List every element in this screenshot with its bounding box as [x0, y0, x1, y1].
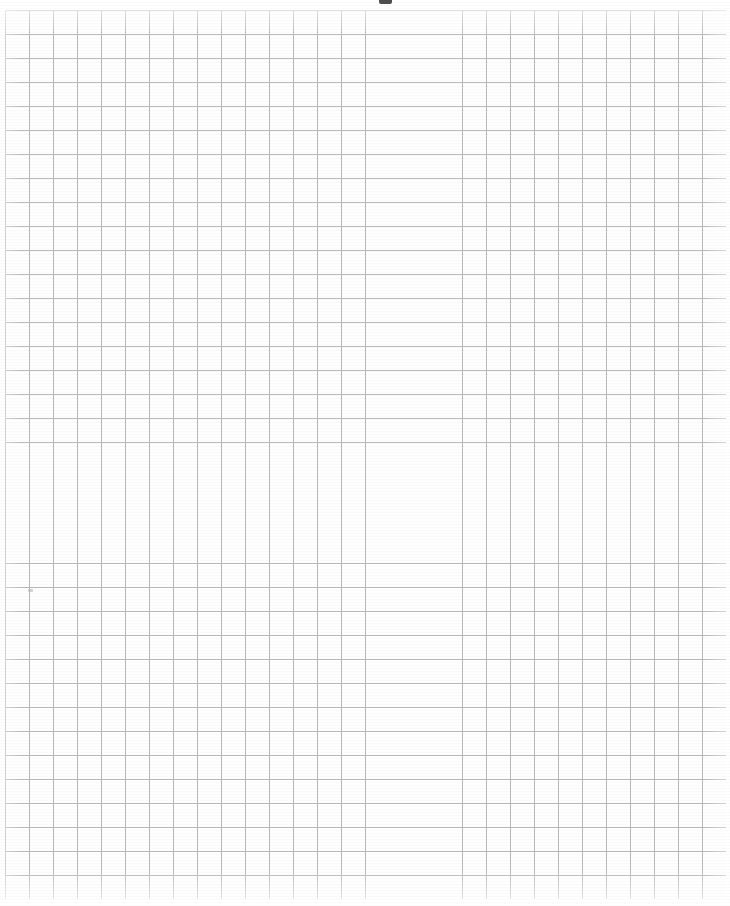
stray-pencil-speck	[28, 589, 33, 592]
left-margin	[0, 0, 5, 906]
graph-paper-grid	[5, 10, 726, 899]
top-margin	[0, 0, 730, 10]
graph-paper-page: Blank sheet of scanned quadrille graph p…	[0, 0, 730, 906]
bottom-margin	[0, 899, 730, 906]
top-edge-scan-artifact	[379, 0, 392, 4]
right-margin	[726, 0, 730, 906]
